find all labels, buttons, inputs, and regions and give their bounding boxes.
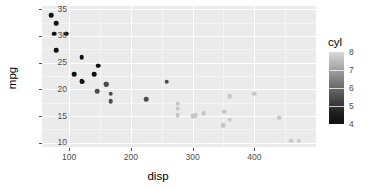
- gridline-minor-vertical: [162, 6, 163, 147]
- y-axis-tick-mark: [39, 116, 43, 117]
- data-point: [96, 64, 101, 69]
- data-point: [175, 113, 180, 118]
- legend-title: cyl: [328, 36, 342, 48]
- gridline-major-horizontal: [42, 63, 316, 64]
- data-point: [54, 21, 59, 26]
- data-point: [289, 138, 294, 143]
- x-axis-tick-mark: [193, 148, 194, 152]
- x-axis-tick-mark: [131, 148, 132, 152]
- data-point: [252, 91, 257, 96]
- legend-tick-label: 6: [349, 83, 354, 93]
- legend-tick-mark: [329, 106, 344, 107]
- y-axis-tick-label: 15: [27, 111, 67, 121]
- y-axis-tick-mark: [39, 89, 43, 90]
- legend-tick-mark: [329, 88, 344, 89]
- y-axis-tick-mark: [39, 143, 43, 144]
- gridline-minor-vertical: [100, 6, 101, 147]
- data-point: [201, 111, 206, 116]
- data-point: [72, 72, 77, 77]
- y-axis-tick-mark: [39, 9, 43, 10]
- y-axis-tick-label: 35: [27, 4, 67, 14]
- gridline-major-vertical: [254, 6, 255, 147]
- legend-tick-label: 4: [349, 119, 354, 129]
- legend-tick-label: 8: [349, 47, 354, 57]
- data-point: [80, 80, 85, 85]
- x-axis-tick-mark: [69, 148, 70, 152]
- x-axis-tick-label: 200: [111, 152, 151, 162]
- data-point: [92, 72, 97, 77]
- legend-tick-mark: [329, 70, 344, 71]
- data-point: [104, 82, 109, 87]
- gridline-minor-horizontal: [42, 49, 316, 50]
- gridline-minor-horizontal: [42, 129, 316, 130]
- gridline-major-vertical: [131, 6, 132, 147]
- legend-tick-label: 7: [349, 65, 354, 75]
- data-point: [109, 99, 114, 104]
- gridline-minor-horizontal: [42, 76, 316, 77]
- data-point: [221, 123, 226, 128]
- data-point: [175, 101, 180, 106]
- x-axis-tick-mark: [254, 148, 255, 152]
- gridline-minor-horizontal: [42, 23, 316, 24]
- gridline-major-horizontal: [42, 9, 316, 10]
- gridline-major-horizontal: [42, 36, 316, 37]
- data-point: [144, 97, 149, 102]
- gridline-major-vertical: [193, 6, 194, 147]
- y-axis-tick-label: 20: [27, 84, 67, 94]
- x-axis-tick-label: 400: [234, 152, 274, 162]
- data-point: [54, 48, 59, 53]
- gridline-major-horizontal: [42, 143, 316, 144]
- data-point: [227, 94, 232, 99]
- y-axis-tick-label: 30: [27, 30, 67, 40]
- gridline-major-horizontal: [42, 89, 316, 90]
- y-axis-tick-mark: [39, 36, 43, 37]
- gridline-minor-vertical: [285, 6, 286, 147]
- data-point: [296, 138, 301, 143]
- y-axis-tick-label: 25: [27, 57, 67, 67]
- legend-tick-label: 5: [349, 101, 354, 111]
- data-point: [79, 55, 84, 60]
- data-point: [109, 91, 114, 96]
- plot-panel: [42, 6, 316, 147]
- data-point: [95, 89, 100, 94]
- y-axis-tick-mark: [39, 63, 43, 64]
- data-point: [164, 80, 169, 85]
- data-point: [222, 109, 227, 114]
- x-axis-title: disp: [0, 170, 316, 182]
- data-point: [227, 117, 232, 122]
- x-axis-tick-label: 100: [49, 152, 89, 162]
- y-axis-title: mpg: [6, 58, 18, 98]
- data-point: [277, 115, 282, 120]
- scatter-plot-figure: mpg disp 101520253035100200300400 cyl 87…: [0, 0, 375, 189]
- y-axis-tick-label: 10: [27, 137, 67, 147]
- x-axis-tick-label: 300: [173, 152, 213, 162]
- gridline-major-vertical: [69, 6, 70, 147]
- data-point: [175, 106, 180, 111]
- data-point: [191, 114, 196, 119]
